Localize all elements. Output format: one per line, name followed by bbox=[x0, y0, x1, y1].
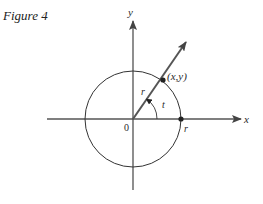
ray-radius-label: r bbox=[141, 86, 145, 97]
point-xy-dot bbox=[160, 77, 165, 82]
figure-caption: Figure 4 bbox=[3, 8, 48, 24]
axis-radius-label: r bbox=[184, 123, 188, 134]
angle-label: t bbox=[162, 99, 165, 110]
unit-circle-figure: Figure 4 y x 0 (x,y) r t r bbox=[0, 0, 263, 204]
angle-arc bbox=[147, 99, 157, 119]
x-axis-label: x bbox=[243, 113, 249, 125]
origin-label: 0 bbox=[124, 122, 129, 133]
point-label: (x,y) bbox=[167, 70, 187, 83]
diagram-canvas: y x 0 (x,y) r t r bbox=[0, 0, 263, 204]
y-axis-label: y bbox=[127, 6, 133, 18]
point-r-dot bbox=[178, 116, 183, 121]
